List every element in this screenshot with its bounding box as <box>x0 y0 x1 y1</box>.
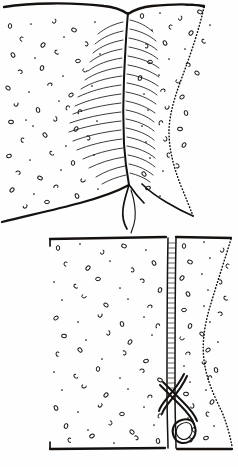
median-band-right-rail <box>175 238 176 448</box>
stipple-crescent <box>217 311 222 316</box>
bristle-rows-right <box>126 20 159 182</box>
stipple-pit <box>187 260 193 265</box>
stipple-field-upper-left <box>5 18 101 208</box>
stipple-dot <box>209 257 211 259</box>
stipple-crescent <box>176 80 180 83</box>
stipple-dot <box>97 188 99 190</box>
stipple-crescent <box>147 394 152 399</box>
stipple-pit <box>209 399 214 405</box>
stipple-pit <box>89 433 95 438</box>
stipple-pit <box>40 42 46 48</box>
stipple-dot <box>29 159 31 161</box>
stipple-crescent <box>84 41 89 46</box>
stipple-crescent <box>65 105 70 110</box>
stipple-dot <box>30 23 32 25</box>
stipple-dot <box>141 125 143 127</box>
lower-bottom-border <box>50 448 165 449</box>
stipple-crescent <box>16 171 21 175</box>
stipple-dot <box>213 425 215 427</box>
stipple-pit <box>77 347 83 353</box>
stipple-dot <box>145 249 147 251</box>
stipple-dot <box>62 75 64 77</box>
stipple-dot <box>143 406 145 408</box>
stipple-crescent <box>220 247 224 252</box>
stipple-dot <box>85 339 87 341</box>
stipple-dot <box>58 100 60 102</box>
stipple-crescent <box>130 267 135 272</box>
stipple-dot <box>96 120 98 122</box>
stipple-crescent <box>157 413 162 418</box>
stipple-crescent <box>140 369 145 373</box>
stipple-dot <box>147 109 149 111</box>
stipple-crescent <box>147 304 152 309</box>
stipple-dot <box>113 442 115 444</box>
stipple-dot <box>203 241 205 243</box>
stipple-crescent <box>83 69 87 72</box>
stipple-pit <box>95 277 100 281</box>
stipple-dot <box>153 424 155 426</box>
stipple-pit <box>6 154 12 159</box>
stipple-pit <box>185 291 190 297</box>
stipple-crescent <box>158 120 163 125</box>
stipple-pit <box>188 30 194 36</box>
stipple-crescent <box>98 402 103 407</box>
stipple-pit <box>8 120 13 124</box>
stipple-pit <box>85 265 91 271</box>
stipple-pit <box>120 321 124 326</box>
stipple-crescent <box>21 138 25 143</box>
stipple-dot <box>159 12 161 14</box>
stipple-pit <box>120 412 125 416</box>
stipple-pit <box>40 65 45 71</box>
stipple-dot <box>207 289 209 291</box>
stipple-pit <box>203 436 209 441</box>
stipple-crescent <box>122 350 127 355</box>
stipple-pit <box>53 405 58 411</box>
stipple-pit <box>197 10 203 15</box>
stipple-pit <box>177 127 182 131</box>
stipple-crescent <box>56 352 60 357</box>
stipple-crescent <box>180 337 184 340</box>
stipple-dot <box>168 58 170 60</box>
lower-top-border <box>50 237 166 239</box>
stipple-crescent <box>81 178 86 182</box>
stipple-pit <box>127 339 132 345</box>
stipple-pit <box>141 171 147 177</box>
stipple-pit <box>10 52 15 58</box>
stipple-pit <box>156 438 160 443</box>
stipple-dot <box>119 377 121 379</box>
stipple-crescent <box>73 374 78 379</box>
stipple-crescent <box>47 82 52 87</box>
stipple-dot <box>162 170 164 172</box>
stipple-crescent <box>139 278 144 283</box>
stipple-dot <box>183 365 185 367</box>
stipple-crescent <box>223 296 228 301</box>
stipple-dot <box>109 260 111 262</box>
stipple-crescent <box>67 437 72 442</box>
stipple-dot <box>209 24 211 26</box>
stipple-crescent <box>178 15 182 20</box>
stipple-pit <box>56 246 59 251</box>
bristle-rows-left <box>69 22 126 184</box>
stipple-dot <box>33 193 35 195</box>
stipple-dot <box>28 91 30 93</box>
stipple-crescent <box>23 203 28 208</box>
stipple-dot <box>143 316 145 318</box>
stipple-crescent <box>20 37 24 42</box>
stipple-crescent <box>82 384 87 388</box>
stipple-dot <box>187 417 189 419</box>
stipple-crescent <box>160 88 165 93</box>
median-band-striations <box>168 243 175 388</box>
stipple-dot <box>127 388 129 390</box>
stipple-pit <box>64 423 69 429</box>
terminal-fork-tail <box>131 190 135 233</box>
stipple-dot <box>209 321 211 323</box>
stipple-dot <box>25 119 27 121</box>
stipple-pit <box>179 94 185 99</box>
stipple-pit <box>42 132 48 138</box>
stipple-pit <box>121 244 127 249</box>
stipple-dot <box>158 74 160 76</box>
stipple-crescent <box>82 295 86 298</box>
median-band-left-rail <box>167 238 168 448</box>
stipple-dot <box>34 57 36 59</box>
stipple-pit <box>181 142 186 148</box>
